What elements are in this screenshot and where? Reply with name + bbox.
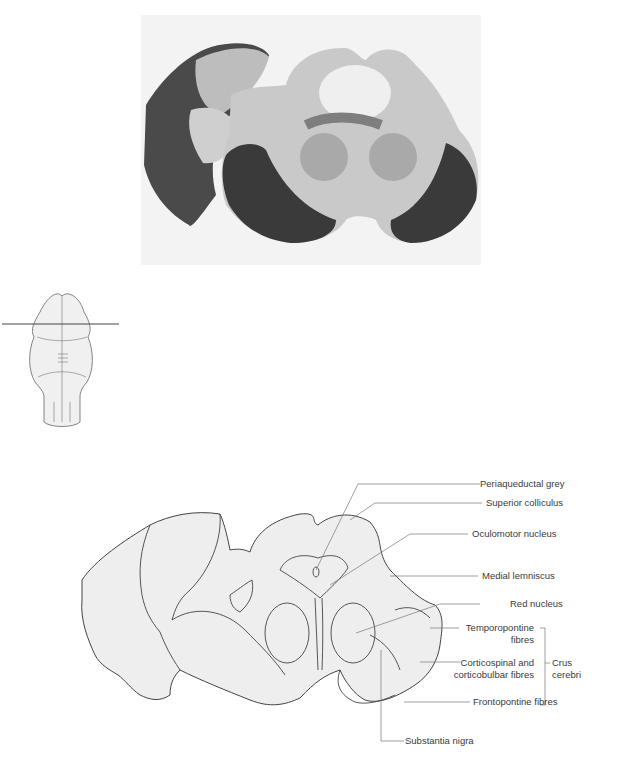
label-medial-lemniscus: Medial lemniscus bbox=[482, 570, 555, 582]
label-corticospinal-line1: Corticospinal and bbox=[445, 657, 534, 669]
label-temporopontine-line1: Temporopontine bbox=[465, 622, 534, 634]
label-crus-line1: Crus bbox=[552, 657, 581, 669]
brainstem-orientation-diagram bbox=[2, 282, 120, 432]
labelled-line-drawing: Periaqueductal grey Superior colliculus … bbox=[0, 470, 619, 760]
label-temporopontine-fibres: Temporopontine fibres bbox=[465, 622, 534, 646]
label-periaqueductal-grey: Periaqueductal grey bbox=[480, 478, 565, 490]
label-crus-cerebri: Crus cerebri bbox=[552, 657, 581, 681]
label-corticospinal-fibres: Corticospinal and corticobulbar fibres bbox=[445, 657, 534, 681]
label-crus-line2: cerebri bbox=[552, 669, 581, 681]
label-temporopontine-line2: fibres bbox=[465, 634, 534, 646]
label-oculomotor-nucleus: Oculomotor nucleus bbox=[472, 528, 556, 540]
label-red-nucleus: Red nucleus bbox=[510, 598, 563, 610]
label-superior-colliculus: Superior colliculus bbox=[486, 497, 563, 509]
label-frontopontine-fibres: Frontopontine fibres bbox=[473, 696, 558, 708]
label-corticospinal-line2: corticobulbar fibres bbox=[445, 669, 534, 681]
label-substantia-nigra: Substantia nigra bbox=[405, 735, 474, 747]
stained-section-photo bbox=[141, 15, 481, 265]
